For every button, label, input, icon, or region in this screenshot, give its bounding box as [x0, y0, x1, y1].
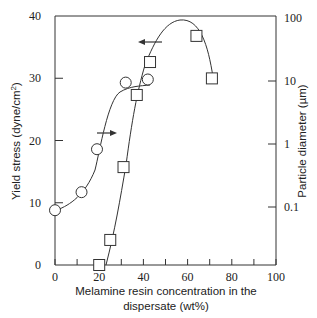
right-arrow-icon	[110, 130, 117, 136]
y-axis-title: Yield stress (dyne/cm2)	[9, 82, 22, 200]
square-marker	[105, 234, 116, 245]
x-tick-label: 40	[137, 270, 149, 284]
y-tick-label: 0	[35, 258, 41, 272]
circle-marker	[76, 187, 87, 198]
circle-marker	[50, 205, 61, 216]
square-marker	[191, 30, 202, 41]
x-tick-label: 60	[182, 270, 194, 284]
y-tick-label: 10	[29, 196, 41, 210]
x-tick-label: 80	[226, 270, 238, 284]
y2-axis-title: Particle diameter (µm)	[296, 84, 308, 198]
circle-marker	[120, 77, 131, 88]
x-tick-label: 20	[93, 270, 105, 284]
left-arrow-icon	[138, 39, 145, 45]
square-marker	[206, 73, 217, 84]
x-axis-title-line2: dispersate (wt%)	[123, 300, 209, 312]
square-marker	[94, 260, 105, 271]
square-marker	[118, 162, 129, 173]
y2-tick-label: 0.1	[284, 200, 299, 214]
y2-tick-label: 10	[284, 74, 296, 88]
circle-marker	[91, 144, 102, 155]
square-marker	[131, 89, 142, 100]
particle-diameter-curve	[106, 20, 213, 265]
y2-tick-label: 1	[284, 137, 290, 151]
y-tick-label: 20	[29, 134, 41, 148]
circle-marker	[142, 74, 153, 85]
y2-tick-label: 100	[284, 11, 302, 25]
square-marker	[145, 57, 156, 68]
y-tick-label: 40	[29, 9, 41, 23]
x-tick-label: 100	[267, 270, 285, 284]
chart: 0204060801000102030400.1110100Yield stre…	[0, 0, 317, 318]
x-axis-title-line1: Melamine resin concentration in the	[75, 285, 257, 297]
y-tick-label: 30	[29, 71, 41, 85]
x-tick-label: 0	[52, 270, 58, 284]
